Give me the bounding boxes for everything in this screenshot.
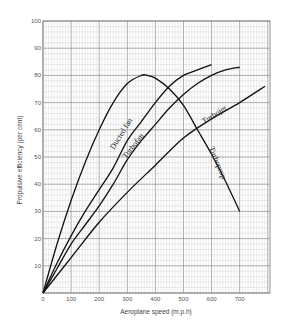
y-tick-label: 70 bbox=[34, 100, 41, 106]
x-axis-ticks: 0100200300400500600700 bbox=[41, 296, 245, 302]
y-axis-ticks: 102030405060708090100 bbox=[31, 18, 42, 269]
x-tick-label: 500 bbox=[178, 296, 189, 302]
y-tick-label: 10 bbox=[34, 263, 41, 269]
curve-label-turboprop: Turboprop bbox=[207, 145, 228, 180]
y-tick-label: 60 bbox=[34, 127, 41, 133]
y-tick-label: 50 bbox=[34, 154, 41, 160]
x-tick-label: 300 bbox=[122, 296, 133, 302]
y-tick-label: 100 bbox=[31, 18, 42, 24]
x-tick-label: 600 bbox=[207, 296, 218, 302]
y-axis-title: Propulsive efficiency (per cent) bbox=[16, 116, 24, 205]
y-tick-label: 30 bbox=[34, 208, 41, 214]
y-tick-label: 90 bbox=[34, 45, 41, 51]
x-tick-label: 400 bbox=[150, 296, 161, 302]
propulsive-efficiency-chart: 102030405060708090100 010020030040050060… bbox=[0, 0, 283, 323]
x-tick-label: 700 bbox=[235, 296, 246, 302]
x-axis-title: Aeroplane speed (m.p.h) bbox=[120, 308, 192, 316]
y-tick-label: 80 bbox=[34, 72, 41, 78]
y-tick-label: 40 bbox=[34, 181, 41, 187]
curve-label-turbojet: Turbojet bbox=[200, 103, 229, 125]
x-tick-label: 0 bbox=[41, 296, 45, 302]
x-tick-label: 100 bbox=[66, 296, 77, 302]
y-tick-label: 20 bbox=[34, 236, 41, 242]
plot-grid bbox=[43, 21, 270, 293]
x-tick-label: 200 bbox=[94, 296, 105, 302]
